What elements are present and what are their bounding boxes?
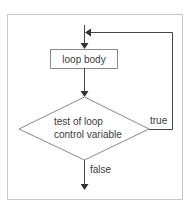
flowchart-canvas: loop body test of loop control variable … xyxy=(0,0,191,209)
decision-label-line1: test of loop xyxy=(54,116,103,127)
test-decision-node: test of loop control variable xyxy=(19,97,149,160)
loop-body-label: loop body xyxy=(62,54,105,65)
false-label: false xyxy=(90,164,112,175)
loop-body-node: loop body xyxy=(51,50,118,69)
decision-label-line2: control variable xyxy=(54,129,122,140)
true-label: true xyxy=(150,115,168,126)
